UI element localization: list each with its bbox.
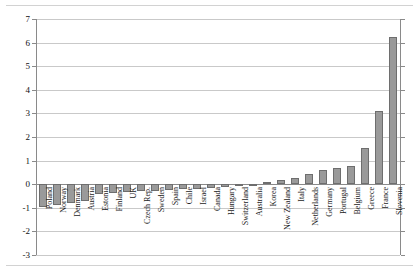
- y-tick-left-7: [32, 19, 36, 20]
- x-axis-label-switzerland: Switzerland: [242, 187, 250, 251]
- y-tick-right-1: [401, 161, 405, 162]
- y-axis-label-2: 2: [0, 133, 30, 142]
- top-divider: [6, 5, 413, 6]
- y-axis-label-6: 6: [0, 39, 30, 48]
- x-axis-label-germany: Germany: [326, 187, 334, 251]
- y-tick-left-2: [32, 137, 36, 138]
- x-axis-label-sweden: Sweden: [158, 187, 166, 251]
- x-axis-label-czech-rep: Czech Rep.: [144, 187, 152, 251]
- x-axis-label-slovenia: Slovenia: [396, 187, 404, 251]
- y-axis-label-5: 5: [0, 62, 30, 71]
- y-axis-label-0: 0: [0, 180, 30, 189]
- bar-germany: [319, 170, 328, 185]
- x-axis-label-uk: UK: [130, 187, 138, 251]
- x-axis-label-portugal: Portugal: [340, 187, 348, 251]
- x-axis-label-estonia: Estonia: [102, 187, 110, 251]
- x-axis-label-denmark: Denmark: [74, 187, 82, 251]
- y-axis-label-7: 7: [0, 15, 30, 24]
- x-axis-label-netherlands: Netherlands: [312, 187, 320, 251]
- bar-france: [375, 111, 384, 184]
- x-axis-label-italy: Italy: [298, 187, 306, 251]
- x-axis-label-belgium: Belgium: [354, 187, 362, 251]
- x-axis-label-austria: Austria: [88, 187, 96, 251]
- bar-australia: [249, 184, 258, 186]
- y-tick-left-4: [32, 90, 36, 91]
- bar-greece: [361, 148, 370, 184]
- y-axis-label--3: -3: [0, 251, 30, 260]
- x-axis-label-france: France: [382, 187, 390, 251]
- x-axis-label-chile: Chile: [186, 187, 194, 251]
- x-axis-label-hungary: Hungary: [228, 187, 236, 251]
- bar-italy: [291, 178, 300, 185]
- x-axis-label-korea: Korea: [270, 187, 278, 251]
- x-axis-label-poland: Poland: [46, 187, 54, 251]
- y-tick-left-3: [32, 113, 36, 114]
- y-tick-right-3: [401, 113, 405, 114]
- x-axis-category-labels: PolandNorwayDenmarkAustriaEstoniaFinland…: [36, 187, 400, 271]
- y-tick-left-5: [32, 66, 36, 67]
- bar-new-zealand: [277, 180, 286, 184]
- y-tick-right-2: [401, 137, 405, 138]
- y-tick-right--3: [401, 255, 405, 256]
- y-axis-label--1: -1: [0, 204, 30, 213]
- x-axis-label-greece: Greece: [368, 187, 376, 251]
- y-tick-right-5: [401, 66, 405, 67]
- x-axis-label-canada: Canada: [214, 187, 222, 251]
- y-tick-left-1: [32, 161, 36, 162]
- bar-korea: [263, 182, 272, 184]
- y-axis-label--2: -2: [0, 227, 30, 236]
- x-axis-label-new-zealand: New Zealand: [284, 187, 292, 251]
- y-tick-right-4: [401, 90, 405, 91]
- y-tick-right-7: [401, 19, 405, 20]
- y-tick-right-6: [401, 43, 405, 44]
- bar-netherlands: [305, 174, 314, 184]
- bar-portugal: [333, 168, 342, 184]
- bar-belgium: [347, 166, 356, 184]
- x-axis-label-finland: Finland: [116, 187, 124, 251]
- y-axis-label-3: 3: [0, 109, 30, 118]
- y-axis-label-1: 1: [0, 157, 30, 166]
- chart-container: 76543210-1-2-3 PolandNorwayDenmarkAustri…: [0, 0, 419, 271]
- y-tick-right-0: [401, 184, 405, 185]
- x-axis-label-norway: Norway: [60, 187, 68, 251]
- y-axis-label-4: 4: [0, 86, 30, 95]
- y-tick-left-6: [32, 43, 36, 44]
- x-axis-label-israel: Israel: [200, 187, 208, 251]
- x-axis-label-australia: Australia: [256, 187, 264, 251]
- y-tick-left-0: [32, 184, 36, 185]
- bar-switzerland: [235, 184, 244, 186]
- x-axis-label-spain: Spain: [172, 187, 180, 251]
- bar-slovenia: [389, 37, 398, 184]
